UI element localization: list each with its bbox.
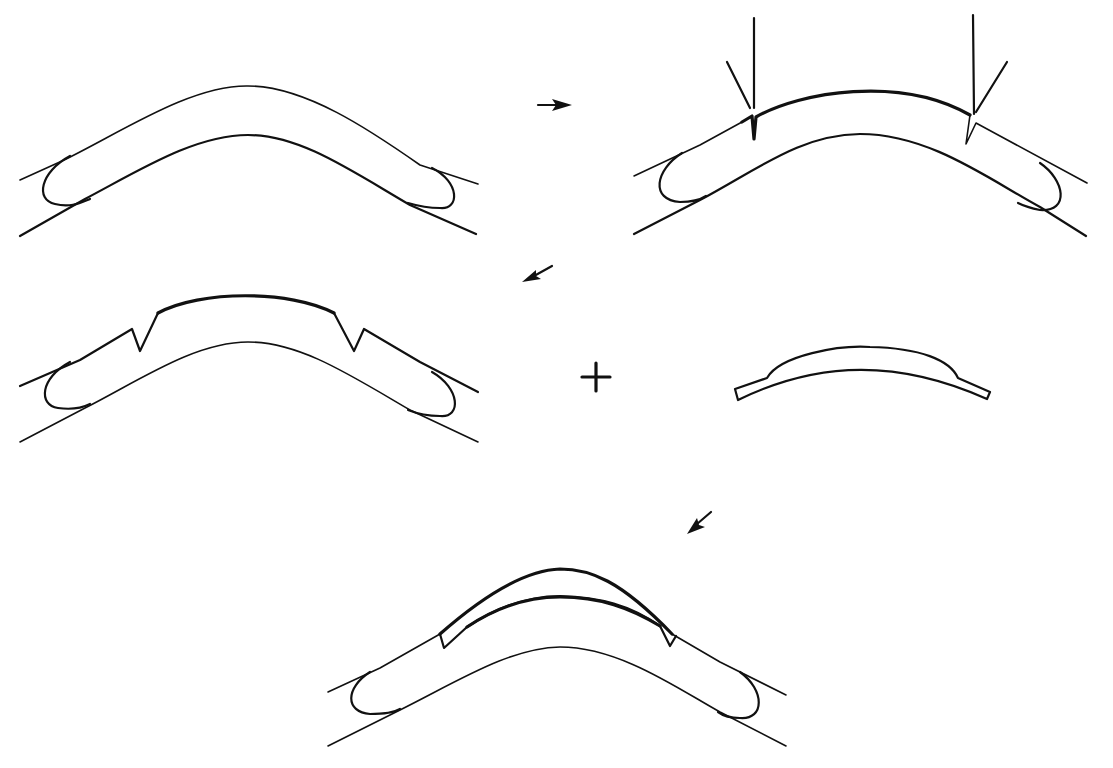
step-2-incisions-line-8 — [973, 15, 974, 114]
lamellar-graft-diagram — [0, 0, 1113, 768]
